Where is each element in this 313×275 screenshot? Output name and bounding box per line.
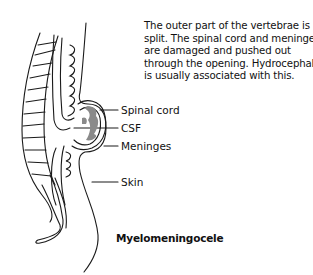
label-meninges: Meninges [121,140,171,152]
label-spinal-cord: Spinal cord [121,104,180,116]
description-line: is usually associated with this. [144,70,312,83]
description-line: are damaged and pushed out [144,45,312,58]
label-csf: CSF [121,122,141,134]
diagram-caption: Myelomeningocele [116,232,223,244]
description-line: The outer part of the vertebrae is [144,20,312,33]
description-line: through the opening. Hydrocephalus [144,58,312,71]
description-line: split. The spinal cord and meninges [144,33,312,46]
description-text: The outer part of the vertebrae is split… [144,20,312,83]
label-skin: Skin [121,176,143,188]
